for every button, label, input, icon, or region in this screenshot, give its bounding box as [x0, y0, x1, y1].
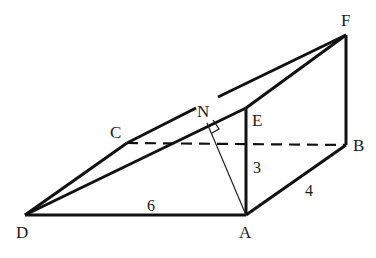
wedge-figure-svg: F E N C B D A 6 3 4 — [0, 0, 376, 258]
perpendicular-an — [207, 123, 246, 215]
edge-ef — [246, 35, 346, 108]
vertex-label-n: N — [197, 102, 209, 121]
vertex-label-d: D — [16, 223, 28, 242]
edge-cf-right — [218, 35, 346, 97]
length-label-ab: 4 — [305, 182, 313, 199]
length-label-da: 6 — [147, 197, 155, 214]
length-label-ae: 3 — [253, 159, 261, 176]
vertex-label-a: A — [239, 223, 252, 242]
vertex-label-e: E — [252, 111, 262, 130]
vertex-label-f: F — [341, 11, 350, 30]
vertex-label-b: B — [353, 136, 364, 155]
wedge-diagram: F E N C B D A 6 3 4 — [0, 0, 376, 258]
edge-ab — [246, 145, 346, 215]
edge-dc — [25, 143, 127, 215]
vertex-label-c: C — [110, 123, 121, 142]
edge-de — [25, 108, 246, 215]
edge-cb-hidden — [127, 143, 346, 145]
